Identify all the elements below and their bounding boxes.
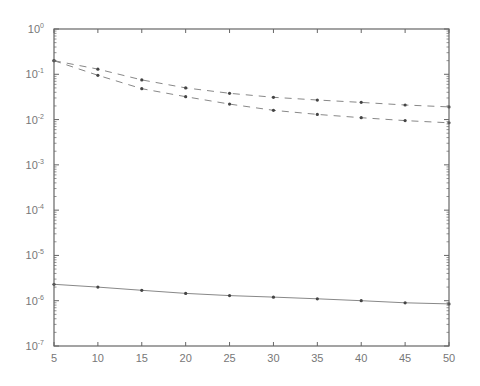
x-tick-label: 50	[443, 352, 455, 364]
data-point	[96, 68, 99, 71]
x-tick-label: 35	[311, 352, 323, 364]
x-tick-label: 15	[136, 352, 148, 364]
x-tick-label: 30	[267, 352, 279, 364]
data-point	[360, 116, 363, 119]
data-point	[360, 101, 363, 104]
x-tick-label: 5	[51, 352, 57, 364]
x-tick-label: 45	[399, 352, 411, 364]
data-point	[184, 292, 187, 295]
data-point	[404, 301, 407, 304]
x-tick-label: 25	[223, 352, 235, 364]
x-tick-label: 40	[355, 352, 367, 364]
data-point	[404, 119, 407, 122]
data-point	[316, 297, 319, 300]
data-point	[184, 95, 187, 98]
data-point	[404, 103, 407, 106]
x-tick-label: 10	[92, 352, 104, 364]
chart-canvas: 5101520253035404550 10010-110-210-310-41…	[0, 0, 480, 386]
x-tick-label: 20	[180, 352, 192, 364]
data-point	[272, 96, 275, 99]
data-point	[140, 78, 143, 81]
data-point	[228, 92, 231, 95]
data-point	[316, 98, 319, 101]
data-point	[272, 109, 275, 112]
data-point	[228, 294, 231, 297]
data-point	[96, 74, 99, 77]
data-point	[140, 289, 143, 292]
data-point	[228, 102, 231, 105]
data-point	[140, 87, 143, 90]
data-point	[96, 285, 99, 288]
background	[0, 0, 480, 386]
data-point	[272, 296, 275, 299]
data-point	[360, 299, 363, 302]
data-point	[184, 86, 187, 89]
data-point	[316, 113, 319, 116]
